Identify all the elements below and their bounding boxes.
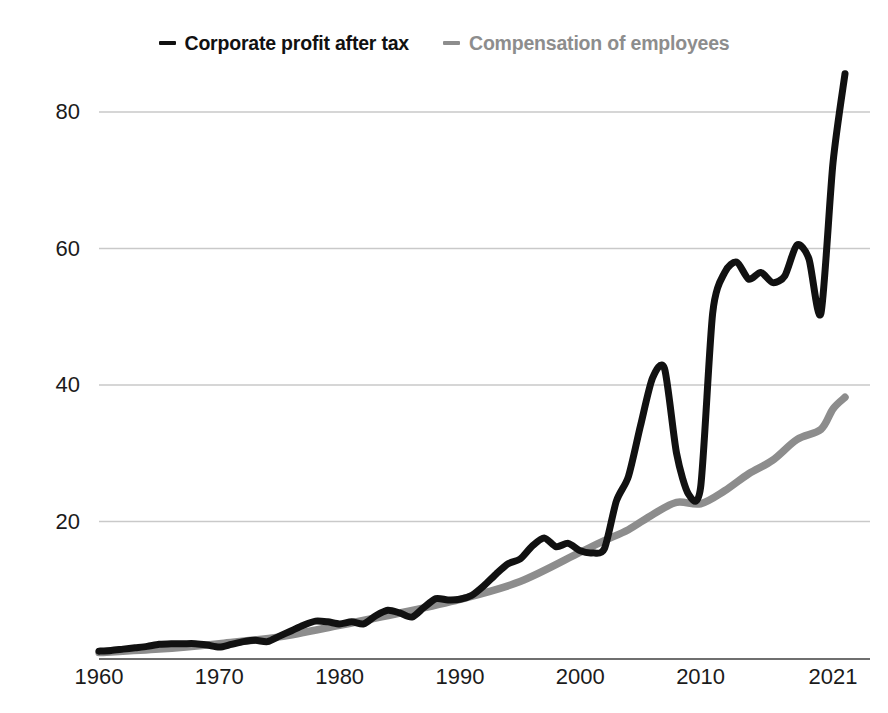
legend-label-compensation: Compensation of employees — [469, 32, 729, 55]
legend-label-corporate-profit: Corporate profit after tax — [185, 32, 410, 55]
x-axis-tick-label: 1970 — [195, 664, 244, 690]
dash-icon — [443, 41, 460, 45]
plot-area — [0, 60, 888, 670]
x-axis-tick-label: 2010 — [676, 664, 725, 690]
y-axis-tick-label: 60 — [22, 236, 80, 262]
x-axis-tick-label: 1980 — [315, 664, 364, 690]
series-line-corporate-profit — [99, 74, 845, 651]
chart-svg — [0, 60, 888, 670]
legend-item-compensation: Compensation of employees — [443, 32, 729, 55]
y-axis-tick-label: 40 — [22, 372, 80, 398]
chart-legend: Corporate profit after tax Compensation … — [0, 26, 888, 60]
x-axis-tick-label: 1960 — [75, 664, 124, 690]
x-axis-tick-label: 2021 — [808, 664, 857, 690]
legend-item-corporate-profit: Corporate profit after tax — [159, 32, 410, 55]
dash-icon — [159, 41, 176, 45]
y-axis-tick-label: 20 — [22, 509, 80, 535]
chart-container: Corporate profit after tax Compensation … — [0, 0, 888, 713]
gridlines — [99, 112, 870, 522]
y-axis-tick-label: 80 — [22, 99, 80, 125]
y-axis-labels: 20406080 — [22, 60, 80, 670]
x-axis-labels: 1960197019801990200020102021 — [0, 664, 888, 704]
x-axis-tick-label: 1990 — [435, 664, 484, 690]
x-axis-tick-label: 2000 — [556, 664, 605, 690]
series-line-compensation — [99, 397, 845, 652]
